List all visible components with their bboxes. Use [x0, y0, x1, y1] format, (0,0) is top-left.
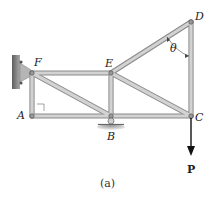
label-C: C: [195, 111, 204, 124]
label-F: F: [33, 56, 42, 69]
angle-theta-marker: θ: [167, 37, 189, 58]
label-A: A: [16, 109, 25, 122]
wall-support: [12, 55, 31, 89]
right-angle-marker: [37, 104, 44, 111]
roller-support: [97, 118, 125, 130]
joint-B: [109, 114, 113, 118]
joint-F: [30, 71, 34, 75]
joint-C: [189, 114, 193, 118]
load-arrow: P: [187, 118, 195, 176]
truss-diagram: θ P F E D A B C (a): [0, 0, 215, 197]
label-B: B: [106, 130, 115, 143]
angle-theta-label: θ: [170, 42, 177, 55]
load-label-P: P: [187, 163, 195, 176]
label-E: E: [104, 57, 113, 70]
figure-caption: (a): [100, 177, 115, 190]
joint-A: [30, 114, 34, 118]
label-D: D: [194, 10, 204, 23]
joint-D: [189, 20, 193, 24]
joint-E: [109, 71, 113, 75]
